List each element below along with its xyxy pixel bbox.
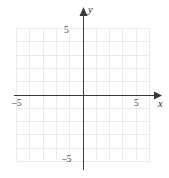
x-axis-name-label: x [158,99,163,110]
y-axis-tick-label-negative-5: –5 [62,155,72,165]
coordinate-grid-figure: 5 –5 –5 5 y x [0,0,169,178]
y-axis-arrowhead [80,7,88,16]
y-axis [80,7,88,170]
x-axis [14,92,162,100]
y-axis-name-label: y [88,5,93,16]
x-axis-tick-label-positive-5: 5 [134,99,139,109]
x-axis-tick-label-negative-5: –5 [12,99,22,109]
y-axis-tick-label-positive-5: 5 [64,26,69,36]
coordinate-plane-svg [0,0,169,178]
